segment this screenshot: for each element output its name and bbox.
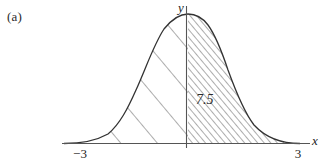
- sparse-diagonal-hatch-icon: [60, 5, 200, 145]
- x-axis-label: x: [311, 133, 318, 148]
- area-value-label: 7.5: [196, 92, 214, 107]
- y-axis-label: y: [176, 0, 184, 15]
- figure-root: (a): [0, 0, 323, 161]
- right-hatched-region: [180, 5, 310, 147]
- x-tick-label-left: −3: [73, 146, 87, 161]
- bell-curve-plot: y x −3 3 7.5: [0, 0, 323, 161]
- x-tick-label-right: 3: [295, 146, 302, 161]
- dense-diagonal-hatch-icon: [180, 5, 310, 147]
- left-hatched-region: [60, 5, 200, 145]
